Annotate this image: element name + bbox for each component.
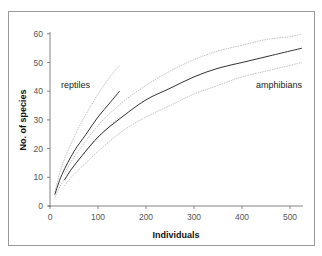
x-tick-label: 400 xyxy=(235,212,249,222)
y-tick-label: 30 xyxy=(34,115,44,125)
amphibians-label: amphibians xyxy=(256,80,303,90)
y-tick-label: 20 xyxy=(34,144,44,154)
amphibians-ci-upper-line xyxy=(64,34,302,175)
x-tick-label: 300 xyxy=(187,212,201,222)
y-tick-label: 40 xyxy=(34,86,44,96)
y-tick-label: 60 xyxy=(34,29,44,39)
x-ticks: 0100200300400500 xyxy=(48,206,298,222)
y-tick-label: 0 xyxy=(38,201,43,211)
x-tick-label: 500 xyxy=(283,212,297,222)
y-axis-title: No. of species xyxy=(18,89,28,150)
x-tick-label: 0 xyxy=(48,212,53,222)
y-ticks: 0102030405060 xyxy=(34,29,50,211)
rarefaction-chart: 0102030405060 0100200300400500 reptiles … xyxy=(0,0,322,256)
series-group xyxy=(55,34,302,198)
reptiles-label: reptiles xyxy=(61,80,91,90)
y-tick-label: 10 xyxy=(34,172,44,182)
x-axis-title: Individuals xyxy=(152,230,199,240)
x-tick-label: 100 xyxy=(91,212,105,222)
x-tick-label: 200 xyxy=(139,212,153,222)
y-tick-label: 50 xyxy=(34,58,44,68)
